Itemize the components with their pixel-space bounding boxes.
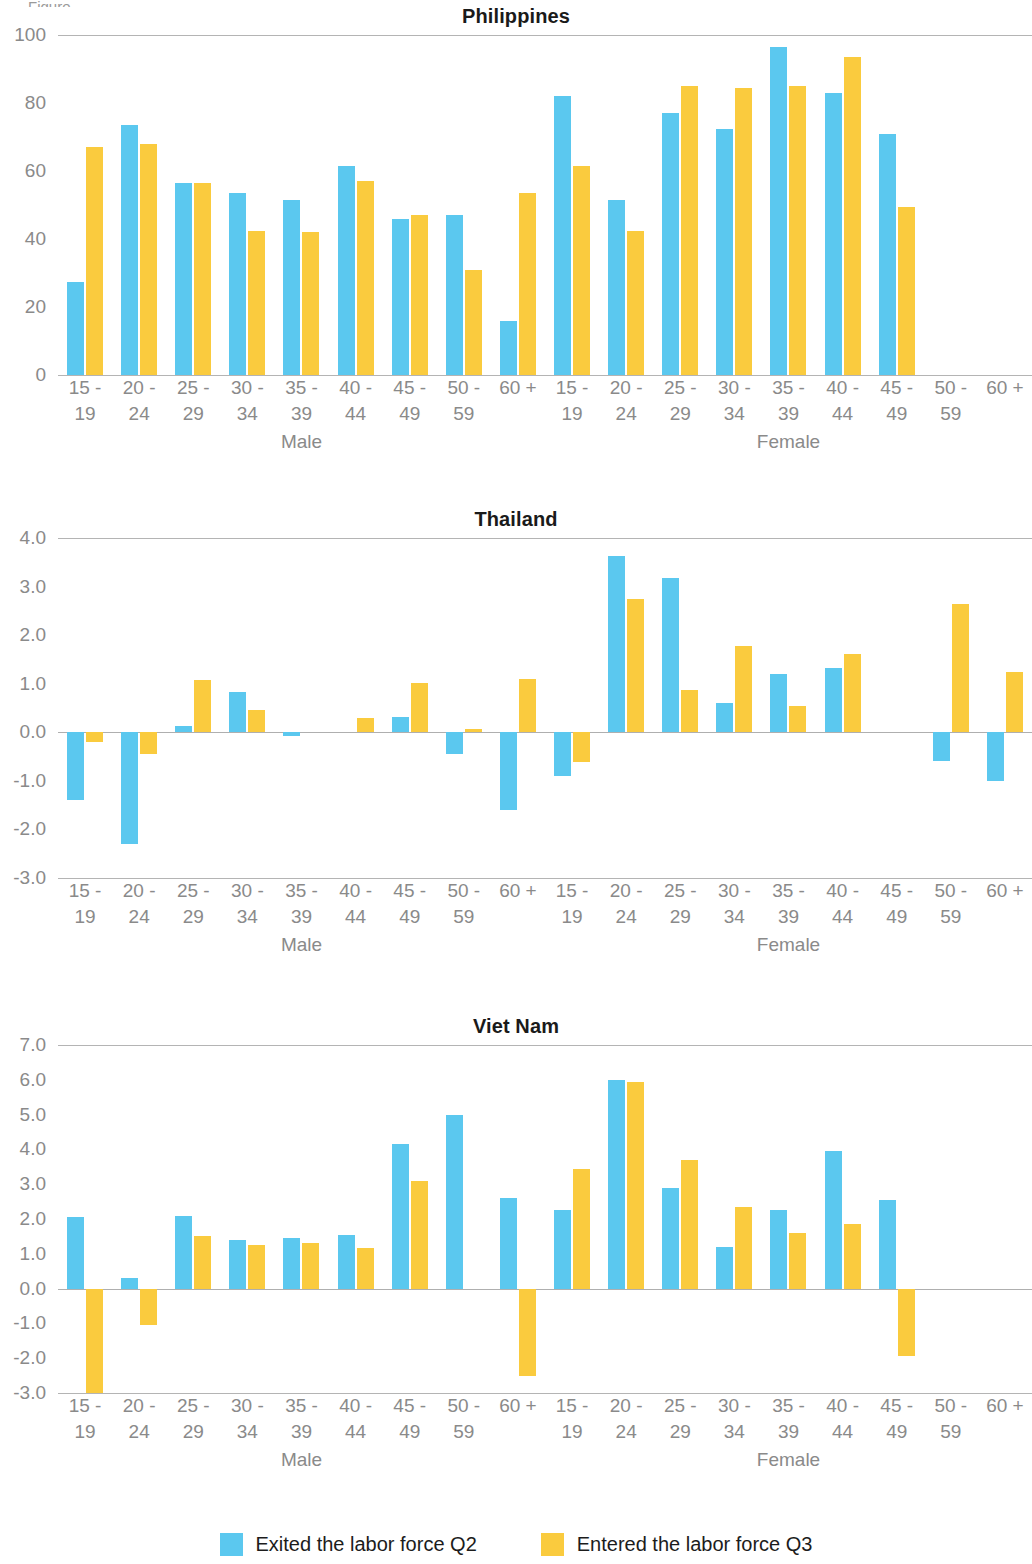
bar-exited [67,282,84,376]
bar-entered [357,1248,374,1289]
bar-group [437,1045,491,1393]
bar-exited [229,1240,246,1289]
bars-layer [58,35,1032,375]
age-range-line-1: 25 - [650,1393,710,1419]
bar-entered [302,232,319,375]
bar-entered [898,1289,915,1357]
x-axis-tick-label: 15 -19 [542,878,602,930]
age-range-line-2: 34 [217,904,277,930]
bar-entered [194,680,211,732]
bar-group [870,35,924,375]
age-range-line-1: 30 - [704,1393,764,1419]
x-axis-tick-label: 60 + [975,878,1032,904]
bar-group [220,538,274,878]
bar-group [220,1045,274,1393]
age-range-line-2: 19 [55,904,115,930]
age-range-line-1: 50 - [921,375,981,401]
x-axis-tick-label: 40 -44 [813,375,873,427]
age-range-line-1: 45 - [867,1393,927,1419]
bar-group [870,1045,924,1393]
age-range-line-2: 39 [272,401,332,427]
age-range-line-1: 40 - [326,878,386,904]
y-axis-tick-label: -2.0 [0,818,46,840]
age-range-line-2: 34 [704,1419,764,1445]
x-axis-tick-label: 35 -39 [272,878,332,930]
x-axis-tick-label: 20 -24 [109,375,169,427]
age-range-line-1: 20 - [109,878,169,904]
y-axis-tick-label: 60 [0,160,46,182]
bar-exited [446,732,463,754]
x-axis-tick-label: 25 -29 [650,1393,710,1445]
bar-exited [229,692,246,732]
age-range-line-1: 20 - [596,878,656,904]
bar-exited [175,1216,192,1289]
x-axis-tick-label: 40 -44 [326,1393,386,1445]
bar-exited [121,732,138,844]
y-axis-tick-label: 1.0 [0,673,46,695]
bar-group [761,35,815,375]
legend-item-entered: Entered the labor force Q3 [541,1533,813,1556]
y-axis-tick-label: 5.0 [0,1104,46,1126]
x-axis-category-row: 15 -1920 -2425 -2930 -3435 -3940 -4445 -… [0,878,1032,934]
age-range-line-1: 60 + [488,1393,548,1419]
bar-entered [844,57,861,375]
age-range-line-2: 49 [380,1419,440,1445]
x-axis-tick-label: 40 -44 [326,878,386,930]
bar-group [329,538,383,878]
sex-group-label-row: MaleFemale [0,1449,1032,1483]
bar-group [220,35,274,375]
bar-exited [608,556,625,732]
age-range-line-1: 40 - [326,1393,386,1419]
bar-exited [283,732,300,736]
bar-group [816,538,870,878]
age-range-line-1: 25 - [163,375,223,401]
bar-exited [879,1200,896,1289]
x-axis-tick-label: 25 -29 [650,375,710,427]
x-axis-tick-label: 60 + [975,1393,1032,1419]
bar-group [761,538,815,878]
bar-exited [175,726,192,732]
y-axis-tick-label: 80 [0,92,46,114]
x-axis-tick-label: 35 -39 [759,878,819,930]
x-axis-tick-label: 45 -49 [867,878,927,930]
y-axis-tick-label: -2.0 [0,1347,46,1369]
age-range-line-1: 15 - [55,1393,115,1419]
bar-entered [681,1160,698,1289]
group-label-male: Male [222,934,382,956]
age-range-line-2: 44 [326,1419,386,1445]
age-range-line-1: 40 - [813,375,873,401]
bar-entered [86,732,103,742]
bar-group [437,538,491,878]
bar-entered [519,679,536,732]
bar-group [653,1045,707,1393]
age-range-line-1: 25 - [163,1393,223,1419]
bar-group [545,538,599,878]
bar-group [816,35,870,375]
bar-entered [519,1289,536,1376]
bar-group [166,35,220,375]
bar-group [978,538,1032,878]
bar-entered [735,646,752,732]
age-range-line-1: 35 - [759,878,819,904]
age-range-line-1: 25 - [650,375,710,401]
age-range-line-2: 59 [434,904,494,930]
bar-exited [770,47,787,375]
bar-exited [716,1247,733,1289]
age-range-line-2: 29 [163,1419,223,1445]
age-range-line-2: 39 [759,401,819,427]
x-axis-tick-label: 15 -19 [542,1393,602,1445]
bar-group [383,35,437,375]
age-range-line-2: 19 [55,1419,115,1445]
sex-group-label-row: MaleFemale [0,431,1032,465]
age-range-line-2: 49 [380,401,440,427]
bar-group [491,1045,545,1393]
bar-group [112,538,166,878]
age-range-line-1: 15 - [542,375,602,401]
age-range-line-2: 49 [867,401,927,427]
bar-entered [898,207,915,375]
age-range-line-1: 45 - [867,375,927,401]
age-range-line-2: 39 [272,904,332,930]
x-axis-tick-label: 35 -39 [272,1393,332,1445]
bar-group [112,1045,166,1393]
age-range-line-1: 60 + [975,878,1032,904]
